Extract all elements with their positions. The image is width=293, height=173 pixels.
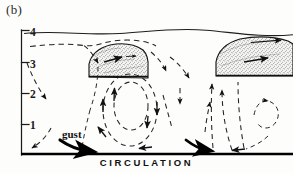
cloud-left <box>89 44 148 78</box>
upper-streamline <box>30 40 156 46</box>
downdraft-left <box>27 63 51 148</box>
updraft-right <box>205 82 244 150</box>
downdraft-middle <box>151 52 189 128</box>
inversion-line <box>24 29 293 35</box>
surface-inflow-arrows <box>232 149 245 151</box>
downdraft-left-center <box>82 67 98 148</box>
boundary-layer-circulation-diagram <box>0 0 293 173</box>
gust-front-arrow-left <box>60 140 88 151</box>
cloud-right <box>216 37 293 76</box>
y-axis <box>22 30 30 155</box>
secondary-vortex-right <box>246 100 278 149</box>
updraft-core-vortex <box>103 74 157 146</box>
vortex-arrowheads <box>98 88 157 149</box>
gust-front-arrow-right <box>186 140 206 150</box>
